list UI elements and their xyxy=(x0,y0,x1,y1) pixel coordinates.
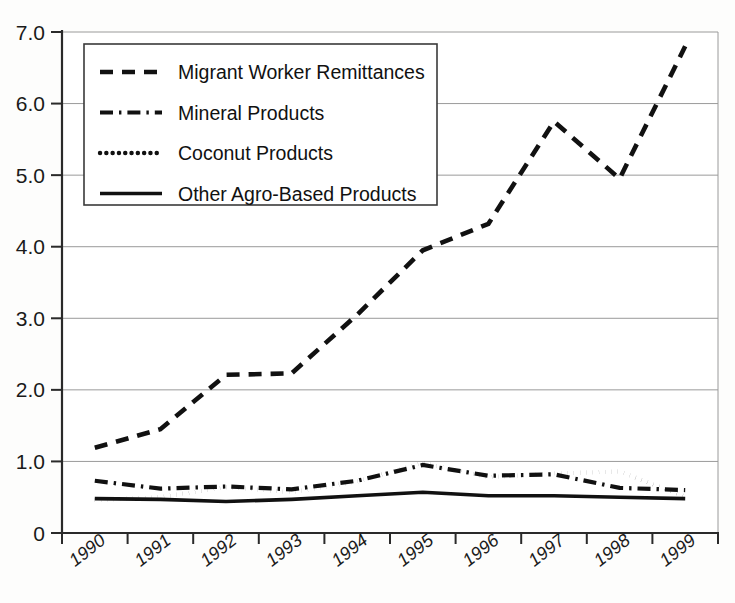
x-axis-tick-label: 1995 xyxy=(393,529,438,570)
legend-label: Other Agro-Based Products xyxy=(178,183,417,205)
x-axis-tick-label: 1999 xyxy=(656,530,700,570)
y-axis-ticks-group xyxy=(51,32,62,533)
y-axis-tick-label: 4.0 xyxy=(16,235,45,258)
legend-label: Mineral Products xyxy=(178,102,325,124)
x-axis-tick-label: 1991 xyxy=(131,530,175,570)
x-axis-tick-label: 1993 xyxy=(262,530,306,570)
y-axis-tick-label: 3.0 xyxy=(16,307,45,330)
x-axis-labels-group: 1990199119921993199419951996199719981999 xyxy=(65,529,699,570)
legend-label: Migrant Worker Remittances xyxy=(178,61,425,83)
chart-legend: Migrant Worker RemittancesMineral Produc… xyxy=(84,44,437,205)
x-axis-tick-label: 1990 xyxy=(65,530,109,570)
chart-canvas: 01.02.03.04.05.06.07.0 19901991199219931… xyxy=(0,0,735,603)
y-axis-tick-label: 7.0 xyxy=(16,21,45,44)
legend-label: Coconut Products xyxy=(178,142,333,164)
y-axis-tick-label: 5.0 xyxy=(16,164,45,187)
y-axis-labels-group: 01.02.03.04.05.06.07.0 xyxy=(16,21,45,545)
x-axis-tick-label: 1997 xyxy=(524,529,569,570)
line-chart: 01.02.03.04.05.06.07.0 19901991199219931… xyxy=(0,0,735,603)
y-axis-tick-label: 1.0 xyxy=(16,450,45,473)
y-axis-tick-label: 0 xyxy=(33,522,45,545)
x-axis-tick-label: 1992 xyxy=(196,530,240,570)
x-axis-tick-label: 1994 xyxy=(328,530,372,570)
y-axis-tick-label: 2.0 xyxy=(16,378,45,401)
x-axis-tick-label: 1996 xyxy=(459,529,504,570)
x-axis-tick-label: 1998 xyxy=(590,530,634,570)
y-axis-tick-label: 6.0 xyxy=(16,92,45,115)
